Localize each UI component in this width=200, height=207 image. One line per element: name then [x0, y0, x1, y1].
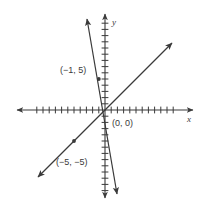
label-point-neg1-5: (−1, 5)	[60, 65, 86, 75]
point-neg5-neg5-marker	[72, 139, 76, 143]
point-neg1-5-marker	[97, 77, 101, 81]
y-axis-label: y	[111, 17, 116, 27]
y-axis	[102, 14, 109, 198]
graph-canvas: y x (−1, 5) (0, 0) (−5, −5)	[0, 0, 200, 207]
label-point-origin: (0, 0)	[112, 118, 133, 128]
x-axis-label: x	[186, 114, 191, 124]
label-point-neg5-neg5: (−5, −5)	[56, 157, 88, 167]
line-y-equals-neg5x	[87, 19, 117, 194]
coordinate-graph-figure: y x (−1, 5) (0, 0) (−5, −5)	[0, 0, 200, 207]
